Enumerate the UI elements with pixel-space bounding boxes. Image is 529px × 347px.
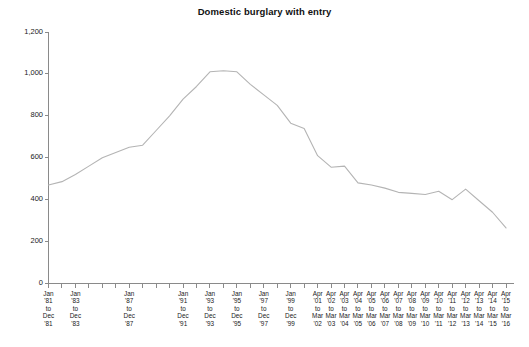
chart-container: Domestic burglary with entry 02004006008…: [0, 0, 529, 347]
x-axis-tick-label: Jan '99 to Dec '99: [278, 290, 304, 328]
x-axis-tick-label: Jan '91 to Dec '91: [170, 290, 196, 328]
x-axis-tick-label: Apr '15 to Mar '16: [493, 290, 519, 328]
chart-series-group: [49, 71, 507, 228]
y-axis-tick-label: 600: [9, 153, 43, 161]
data-series-line: [49, 71, 507, 228]
y-axis-tick-label: 1,200: [9, 28, 43, 36]
y-axis-tick-label: 0: [9, 279, 43, 287]
x-axis-tick-label: Jan '95 to Dec '95: [224, 290, 250, 328]
x-axis-tick-label: Jan '97 to Dec '97: [251, 290, 277, 328]
y-axis-tick-label: 400: [9, 195, 43, 203]
x-axis-tick-label: Jan '83 to Dec '83: [62, 290, 88, 328]
chart-axes: [45, 32, 514, 288]
x-axis-tick-label: Jan '81 to Dec '81: [36, 290, 62, 328]
y-axis-tick-label: 800: [9, 111, 43, 119]
x-axis-tick-label: Jan '87 to Dec '87: [116, 290, 142, 328]
y-axis-tick-label: 1,000: [9, 69, 43, 77]
y-axis-tick-label: 200: [9, 237, 43, 245]
x-axis-tick-label: Jan '93 to Dec '93: [197, 290, 223, 328]
